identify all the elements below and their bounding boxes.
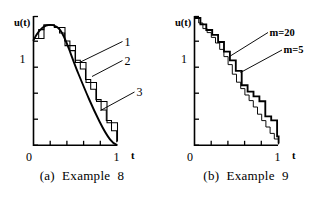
x-axis-label-a: t	[131, 150, 135, 161]
caption-example-8: (a) Example 8	[0, 168, 164, 184]
x-tick-label-one-b: 1	[275, 150, 281, 164]
axes-example-9	[194, 16, 278, 146]
y-axis-label-b: u(t)	[175, 17, 192, 29]
series-m20-staircase	[195, 18, 279, 144]
panel-example-9: u(t) 1 0 1 t m=20 m=5 (b) Example 9	[164, 0, 328, 206]
callout-leader-lines-b	[230, 33, 283, 73]
x-tick-label-zero-a: 0	[26, 150, 32, 164]
caption-example-9: (b) Example 9	[164, 168, 328, 184]
y-axis-label-a: u(t)	[14, 17, 31, 29]
figure-two-panel-plots: u(t) 1 0 1 t 1 2 3 (a) Example 8	[0, 0, 328, 206]
x-axis-label-b: t	[292, 150, 296, 161]
callout-label-m20: m=20	[270, 27, 295, 38]
callout-label-m5: m=5	[284, 44, 304, 55]
panel-example-8: u(t) 1 0 1 t 1 2 3 (a) Example 8	[0, 0, 164, 206]
callout-label-3: 3	[137, 85, 143, 99]
x-tick-label-zero-b: 0	[187, 150, 193, 164]
callout-label-1: 1	[125, 35, 131, 49]
series-exact-curve-a	[34, 25, 117, 145]
y-tick-label-one-a: 1	[20, 52, 26, 66]
x-tick-label-one-a: 1	[114, 150, 120, 164]
series-fine-staircase-a	[34, 25, 117, 142]
callout-label-2: 2	[125, 54, 131, 68]
y-tick-label-one-b: 1	[181, 52, 187, 66]
series-coarse-staircase-a	[34, 25, 118, 142]
axes-example-8	[33, 16, 117, 146]
